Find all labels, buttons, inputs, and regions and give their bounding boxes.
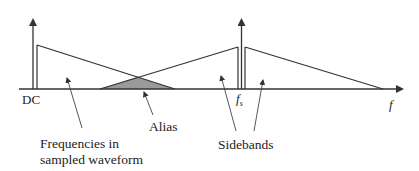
upper-sideband-slope	[245, 47, 383, 89]
alias-pointer-arrow	[144, 92, 153, 115]
fs-label: fs	[236, 91, 243, 108]
frequencies-label-line1: Frequencies in	[40, 136, 119, 151]
sidebands-label: Sidebands	[218, 137, 274, 152]
fs-label-subscript: s	[240, 99, 243, 108]
dc-label: DC	[22, 92, 40, 107]
upper-sideband-pointer-arrow	[254, 80, 263, 131]
baseband-slope	[37, 45, 175, 89]
lower-sideband-slope	[100, 47, 238, 89]
f-axis-label: f	[389, 97, 395, 112]
lower-sideband-pointer-arrow	[221, 76, 236, 131]
alias-label: Alias	[149, 119, 178, 134]
frequencies-pointer-arrow	[67, 78, 82, 128]
aliasing-diagram: DC fs f Alias Frequencies in sampled wav…	[0, 0, 419, 171]
alias-region	[100, 77, 175, 89]
frequencies-label-line2: sampled waveform	[40, 152, 144, 167]
